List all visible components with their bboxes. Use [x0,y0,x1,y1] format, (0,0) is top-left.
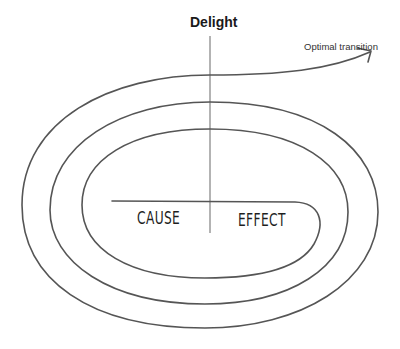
cause-label: CAUSE [137,208,180,228]
spiral-diagram: Delight Optimal transition CAUSE EFFECT [0,0,400,349]
spiral-path [22,52,378,328]
optimal-transition-label: Optimal transition [304,41,378,52]
effect-label: EFFECT [238,210,286,230]
spiral-graphic [0,0,400,349]
diagram-title: Delight [190,14,237,30]
